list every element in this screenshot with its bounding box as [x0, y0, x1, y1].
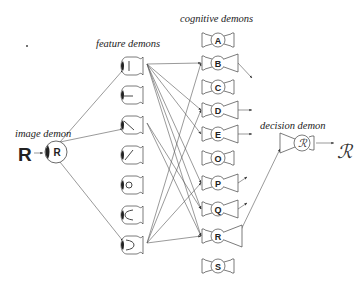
- cognitive-demon-letter: B: [215, 59, 222, 69]
- cognitive-demon-letter: R: [215, 232, 222, 242]
- feature-demon-body: [121, 57, 143, 75]
- cognitive-demon-ear-left: [202, 80, 205, 94]
- cognitive-demon-ear-left: [202, 229, 205, 243]
- feature-demon-open-curve-right: [121, 236, 143, 254]
- cognitive-demon-C: C: [202, 80, 234, 94]
- cognitive-demon-ear-left: [202, 103, 205, 117]
- arrow-cognitive-shout: [238, 63, 252, 78]
- arrow-image-to-feature: [60, 162, 123, 241]
- pandemonium-diagram: RABCDEOPQRSℛ image demon feature demons …: [0, 0, 363, 290]
- cognitive-demon-ear-left: [202, 176, 205, 190]
- cognitive-demon-mouth-shouting: [224, 225, 242, 247]
- cognitive-demon-ear-left: [202, 127, 205, 141]
- cognitive-demon-letter: O: [214, 154, 221, 164]
- cognitive-demon-ear-left: [202, 33, 205, 47]
- cognitive-demon-E: E: [202, 125, 238, 143]
- arrow-feature-to-cognitive: [147, 183, 201, 243]
- cognitive-demon-ear-left: [202, 56, 205, 70]
- cognitive-demon-ear-right: [224, 259, 234, 273]
- cognitive-demon-letter: P: [215, 179, 221, 189]
- cognitive-demon-mouth-shouting: [224, 101, 238, 119]
- cognitive-demon-P: P: [202, 174, 238, 192]
- feature-demons-label: feature demons: [96, 38, 160, 49]
- cognitive-demon-B: B: [202, 54, 238, 72]
- feature-demon-horizontal-line: [121, 86, 143, 104]
- arrow-cognitive-shout: [238, 203, 247, 209]
- feature-demon-body: [121, 146, 143, 164]
- cognitive-demon-S: S: [202, 259, 234, 273]
- cognitive-demon-ear-left: [202, 259, 205, 273]
- cognitive-demon-O: O: [202, 151, 234, 165]
- arrow-cognitive-to-decision: [240, 149, 280, 232]
- feature-demon-open-curve-left: [121, 206, 143, 224]
- decision-demon-letter: ℛ: [298, 137, 308, 150]
- stray-dot: [26, 45, 28, 47]
- cognitive-demon-ear-left: [202, 151, 205, 165]
- cognitive-demon-A: A: [202, 33, 234, 47]
- cognitive-demon-ear-right: [224, 151, 234, 165]
- feature-demon-diagonal-backslash: [121, 116, 143, 134]
- feature-demon-vertical-line: [121, 57, 143, 75]
- cognitive-demon-R: R: [202, 225, 242, 247]
- feature-demon-body: [121, 206, 143, 224]
- arrow-feature-to-cognitive: [147, 63, 201, 64]
- cognitive-demon-D: D: [202, 101, 238, 119]
- arrow-feature-to-cognitive: [147, 236, 201, 243]
- diagram-canvas: RABCDEOPQRSℛ: [0, 0, 363, 290]
- cognitive-demon-letter: A: [215, 36, 222, 46]
- cognitive-demon-ear-right: [224, 80, 234, 94]
- feature-demon-diagonal-slash: [121, 146, 143, 164]
- arrow-cognitive-shout: [238, 177, 247, 183]
- cognitive-demon-letter: C: [215, 83, 222, 93]
- feature-demon-body: [121, 236, 143, 254]
- arrow-feature-to-cognitive: [147, 110, 201, 243]
- cognitive-demon-letter: Q: [214, 205, 221, 215]
- feature-demon-body: [121, 86, 143, 104]
- output-letter: ℛ: [337, 140, 352, 162]
- arrow-feature-to-cognitive: [147, 64, 201, 110]
- cognitive-demon-ear-right: [224, 33, 234, 47]
- cognitive-demons-label: cognitive demons: [180, 13, 253, 24]
- decision-demon: ℛ: [280, 133, 314, 153]
- image-demon: R: [45, 141, 67, 163]
- image-demon-letter: R: [53, 147, 61, 158]
- cognitive-demon-ear-left: [202, 202, 205, 216]
- cognitive-demon-letter: D: [215, 106, 222, 116]
- arrow-feature-to-cognitive: [147, 123, 201, 236]
- cognitive-demon-letter: S: [215, 262, 221, 272]
- cognitive-demon-letter: E: [215, 130, 221, 140]
- cognitive-demon-mouth-shouting: [224, 200, 238, 218]
- feature-demon-circle: [121, 176, 143, 194]
- decision-demon-label: decision demon: [260, 120, 326, 131]
- demon-nodes: RABCDEOPQRSℛ: [45, 33, 314, 273]
- input-letter: R: [18, 144, 32, 166]
- arrow-feature-to-cognitive: [147, 64, 201, 209]
- connection-arrows: [34, 63, 334, 243]
- cognitive-demon-mouth-shouting: [224, 174, 238, 192]
- decision-demon-mouth: [280, 133, 295, 153]
- cognitive-demon-Q: Q: [202, 200, 238, 218]
- image-demon-label: image demon: [15, 128, 71, 139]
- feature-demon-body: [121, 116, 143, 134]
- cognitive-demon-mouth-shouting: [224, 54, 238, 72]
- cognitive-demon-mouth-shouting: [224, 125, 238, 143]
